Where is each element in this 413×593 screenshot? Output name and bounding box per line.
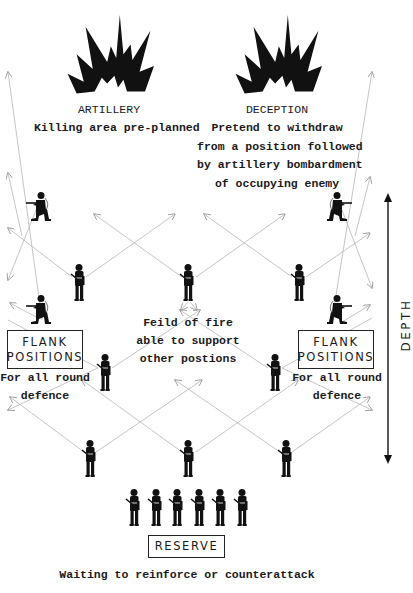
flank-soldier-right-lower <box>327 295 352 324</box>
support-soldier-1 <box>97 354 111 391</box>
deception-title: DECEPTION <box>232 101 322 120</box>
reserve-soldiers <box>126 489 248 526</box>
explosion-icon-artillery <box>68 15 154 93</box>
deception-line-1: Pretend to withdraw <box>202 119 352 138</box>
depth-label: DEPTH <box>399 295 413 355</box>
reserve-caption: Waiting to reinforce or counterattack <box>56 566 318 585</box>
field-of-fire-line-2: able to support <box>128 332 248 351</box>
flank-positions-box-left: FLANK POSITIONS <box>7 330 83 369</box>
deception-line-4: of occupying enemy <box>202 175 352 194</box>
field-of-fire-line-1: Feild of fire <box>128 314 248 333</box>
flank-left-caption-2: defence <box>0 387 90 406</box>
flank-right-caption-1: For all round <box>292 369 382 388</box>
flank-box-left-line-2: POSITIONS <box>7 350 83 365</box>
rear-soldier-1 <box>82 440 96 477</box>
front-soldier-2 <box>180 264 194 301</box>
flank-right-caption-2: defence <box>292 387 382 406</box>
front-soldier-1 <box>71 264 85 301</box>
depth-arrow-icon <box>384 193 392 464</box>
deception-line-2: from a position followed <box>197 138 357 157</box>
flank-box-right-line-2: POSITIONS <box>298 350 374 365</box>
flank-positions-box-right: FLANK POSITIONS <box>298 330 374 369</box>
reserve-box: RESERVE <box>148 535 225 558</box>
front-soldier-3 <box>291 264 305 301</box>
flank-box-left-line-1: FLANK <box>22 335 67 350</box>
flank-box-right-line-1: FLANK <box>313 335 358 350</box>
flank-soldier-left-lower <box>26 295 51 324</box>
flank-soldier-left-upper <box>26 192 51 221</box>
diagram-canvas <box>0 0 413 593</box>
deception-line-3: by artillery bombardment <box>197 156 357 175</box>
rear-soldier-2 <box>180 440 194 477</box>
flank-left-caption-1: For all round <box>0 369 90 388</box>
field-of-fire-line-3: other postions <box>128 350 248 369</box>
support-soldier-2 <box>267 354 281 391</box>
explosion-icon-deception <box>236 15 322 93</box>
artillery-subtitle: Killing area pre-planned <box>34 119 184 138</box>
artillery-title: ARTILLERY <box>64 101 154 120</box>
reserve-label: RESERVE <box>155 539 219 554</box>
rear-soldier-3 <box>278 440 292 477</box>
